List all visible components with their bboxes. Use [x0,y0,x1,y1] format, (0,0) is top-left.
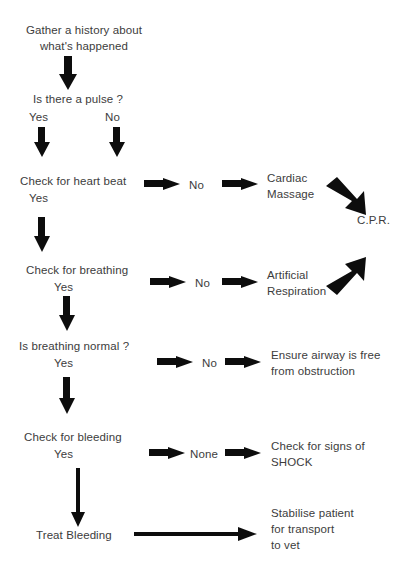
node-cpr: C.P.R. [357,212,407,228]
label-heartbeat-yes: Yes [29,190,48,206]
node-pulse-question: Is there a pulse ? [33,91,173,107]
node-treat-bleeding: Treat Bleeding [36,527,156,543]
label-normal-yes: Yes [54,355,73,371]
label-pulse-no: No [105,109,120,125]
arrow-heartbeat-yes-to-breathing [34,217,50,252]
arrow-normal-to-no [157,356,193,368]
label-breathing-yes: Yes [54,279,73,295]
label-normal-no: No [202,355,217,371]
arrow-none-to-shock [225,447,261,459]
arrow-normal-yes-to-bleeding [59,377,75,414]
label-breathing-no: No [195,275,210,291]
arrow-no-to-artificial-respiration [222,276,258,288]
node-check-bleeding: Check for bleeding [24,429,174,445]
node-stabilise-patient: Stabilise patient for transport to vet [271,505,391,553]
node-gather-history: Gather a history about what's happened [14,22,154,54]
node-breathing-normal-question: Is breathing normal ? [19,338,179,354]
node-check-breathing: Check for breathing [26,262,176,278]
arrow-no-to-cardiac-massage [222,178,258,190]
label-heartbeat-no: No [189,177,204,193]
label-bleeding-none: None [190,446,218,462]
node-artificial-respiration: Artificial Respiration [267,267,357,299]
arrow-bleeding-to-none [149,447,185,459]
arrow-pulse-no-to-heartbeat [109,127,125,157]
node-check-heart-beat: Check for heart beat [20,173,170,189]
label-bleeding-yes: Yes [54,446,73,462]
arrow-no-to-ensure-airway [225,356,261,368]
node-check-shock: Check for signs of SHOCK [271,438,401,470]
node-ensure-airway: Ensure airway is free from obstruction [271,347,401,379]
arrow-breathing-yes-to-normal [59,296,75,331]
flowchart-canvas: Gather a history about what's happened I… [0,0,407,583]
label-pulse-yes: Yes [29,109,48,125]
node-cardiac-massage: Cardiac Massage [267,170,347,202]
arrow-pulse-yes-to-heartbeat [34,127,50,157]
arrow-gather-to-pulse [59,56,77,90]
arrow-bleeding-yes-to-treat [71,468,85,527]
